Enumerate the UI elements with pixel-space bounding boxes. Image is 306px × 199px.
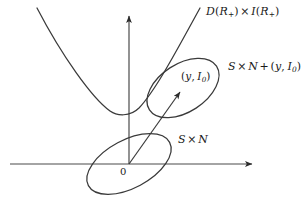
label-parabola-d: D bbox=[206, 5, 215, 18]
label-set-s-lower: S bbox=[178, 133, 186, 146]
paren-close-right: ) bbox=[275, 5, 280, 18]
paren-close-point: ) bbox=[206, 70, 210, 82]
label-translated-ellipse: S×N+(y, I0) bbox=[228, 61, 301, 73]
label-point-marker: (y, I0) bbox=[181, 71, 210, 83]
label-set-n-lower: N bbox=[198, 133, 208, 146]
label-parabola-curve: D(R+)×I(R+) bbox=[206, 6, 280, 18]
label-origin: 0 bbox=[120, 167, 127, 177]
times-operator-lower: × bbox=[186, 133, 198, 146]
times-operator-parabola: × bbox=[239, 5, 251, 18]
label-parabola-r-left: R bbox=[220, 5, 228, 18]
label-set-s-upper: S bbox=[228, 60, 236, 73]
diagram-canvas bbox=[0, 0, 306, 199]
label-set-n-upper: N bbox=[248, 60, 258, 73]
label-parabola-r-right: R bbox=[260, 5, 268, 18]
figure-container: D(R+)×I(R+) S×N+(y, I0) (y, I0) S×N 0 bbox=[0, 0, 306, 199]
paren-close-upper: ) bbox=[297, 60, 302, 73]
times-operator-upper: × bbox=[236, 60, 248, 73]
plus-operator-upper: + bbox=[258, 60, 270, 73]
label-origin-ellipse: S×N bbox=[178, 134, 208, 145]
